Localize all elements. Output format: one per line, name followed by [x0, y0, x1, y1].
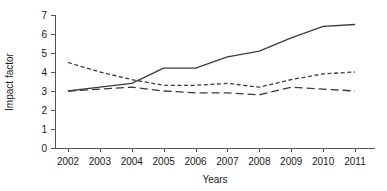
y-tick-label: 5	[41, 48, 47, 59]
x-tick-label: 2008	[248, 156, 271, 167]
data-series-group	[68, 25, 355, 95]
y-axis-title: Impact factor	[4, 52, 15, 110]
x-tick-label: 2004	[121, 156, 144, 167]
y-tick-label: 6	[41, 29, 47, 40]
x-tick-label: 2002	[57, 156, 80, 167]
x-tick-label: 2006	[184, 156, 207, 167]
series-line-dotted	[68, 63, 355, 88]
y-tick-label: 4	[41, 67, 47, 78]
y-tick-label: 3	[41, 86, 47, 97]
x-tick-label: 2011	[344, 156, 366, 167]
y-tick-label: 2	[41, 105, 47, 116]
y-tick-label: 7	[41, 10, 47, 21]
x-tick-label: 2007	[216, 156, 239, 167]
x-tick-label: 2009	[280, 156, 303, 167]
x-axis-ticks	[69, 149, 356, 153]
y-axis-tick-labels: 01234567	[41, 10, 47, 154]
y-axis-ticks	[51, 16, 56, 149]
series-line-dashed	[68, 87, 355, 95]
x-axis-tick-labels: 2002200320042005200620072008200920102011	[57, 156, 366, 167]
y-tick-label: 1	[41, 124, 47, 135]
y-tick-label: 0	[41, 143, 47, 154]
x-tick-label: 2010	[312, 156, 335, 167]
impact-factor-line-chart: 01234567 2002200320042005200620072008200…	[0, 0, 387, 191]
x-tick-label: 2005	[153, 156, 176, 167]
chart-canvas: 01234567 2002200320042005200620072008200…	[0, 0, 387, 191]
x-tick-label: 2003	[89, 156, 112, 167]
series-line-solid	[68, 25, 355, 92]
x-axis-title: Years	[202, 174, 227, 185]
